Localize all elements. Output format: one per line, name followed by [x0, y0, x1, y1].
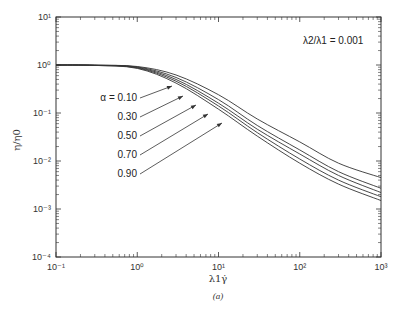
alpha-label: α = 0.10	[100, 92, 137, 103]
alpha-label: 0.50	[118, 130, 138, 141]
y-tick-label: 10⁰	[37, 60, 51, 70]
x-tick-label: 10⁻¹	[47, 262, 65, 272]
curve-alpha-090	[56, 65, 381, 201]
y-tick-label: 10¹	[38, 12, 51, 22]
x-axis-label: λ1γ̇	[209, 273, 228, 284]
arrow-line	[140, 86, 172, 98]
arrow-line	[140, 96, 183, 117]
arrowhead-icon	[167, 86, 172, 90]
x-tick-label: 10⁰	[130, 262, 144, 272]
x-tick-label: 10²	[293, 262, 306, 272]
y-tick-label: 10⁻³	[33, 204, 51, 214]
arrowhead-icon	[178, 96, 183, 100]
alpha-label: 0.90	[118, 168, 138, 179]
x-tick-label: 10¹	[212, 262, 225, 272]
curve-alpha-070	[56, 65, 381, 197]
y-tick-label: 10⁻⁴	[32, 252, 51, 262]
y-tick-label: 10⁻¹	[33, 108, 51, 118]
arrowhead-icon	[217, 123, 222, 127]
arrow-line	[140, 114, 208, 155]
plot-frame	[56, 17, 381, 257]
axes: 10⁻¹10⁰10¹10²10³10¹10⁰10⁻¹10⁻²10⁻³10⁻⁴	[32, 12, 387, 272]
alpha-label: 0.70	[118, 149, 138, 160]
arrowhead-icon	[203, 114, 208, 118]
figure-caption: (a)	[213, 291, 224, 301]
curve-alpha-010	[56, 65, 381, 178]
parameter-annotation: λ2/λ1 = 0.001	[303, 35, 364, 46]
curve-alpha-050	[56, 65, 381, 193]
arrowhead-icon	[191, 105, 196, 109]
curves	[56, 65, 381, 201]
arrow-line	[140, 105, 196, 136]
viscosity-chart: 10⁻¹10⁰10¹10²10³10¹10⁰10⁻¹10⁻²10⁻³10⁻⁴ α…	[0, 0, 401, 321]
y-tick-label: 10⁻²	[33, 156, 51, 166]
y-axis-label: η/η0	[11, 129, 22, 151]
alpha-label: 0.30	[118, 111, 138, 122]
x-tick-label: 10³	[374, 262, 387, 272]
